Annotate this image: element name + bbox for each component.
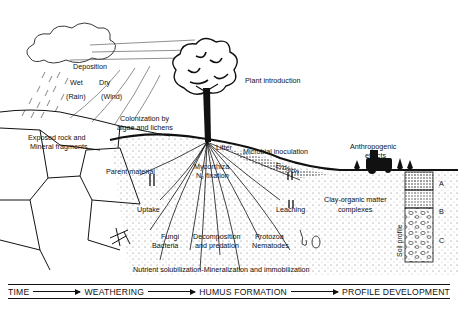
label-anthropogenic-2: effects — [365, 152, 386, 160]
soil-formation-diagram: Deposition Wet (Rain) Dry (Wind) Exposed… — [0, 0, 458, 310]
label-horizon-c: C — [439, 237, 444, 245]
timeline-step-profile: PROFILE DEVELOPMENT — [342, 287, 450, 297]
label-wind: (Wind) — [101, 93, 122, 101]
label-leaching: Leaching — [276, 206, 305, 214]
arrow-right-icon — [291, 291, 338, 292]
label-exposed-rock-2: Mineral fragments — [30, 143, 88, 151]
label-clay-organic-2: complexes — [338, 206, 372, 214]
label-deposition: Deposition — [73, 63, 107, 71]
label-parent-material: Parent material — [106, 168, 155, 176]
label-wet: Wet — [70, 79, 83, 87]
arrow-right-icon — [33, 291, 80, 292]
label-litter: Litter — [216, 144, 232, 152]
label-n2-fixation: N₂ fixation — [196, 172, 229, 180]
label-horizon-a: A — [439, 180, 444, 188]
diagram-artwork — [0, 0, 458, 310]
label-microbial-inoculation: Microbial inoculation — [243, 148, 308, 156]
timeline-step-humus: HUMUS FORMATION — [199, 287, 287, 297]
rain-lines — [22, 72, 68, 118]
label-horizon-b: B — [439, 208, 444, 216]
process-timeline: TIME WEATHERING HUMUS FORMATION PROFILE … — [8, 284, 450, 299]
label-uptake: Uptake — [137, 206, 160, 214]
label-nutrient-cycle: Nutrient solubilization-Mineralization a… — [133, 266, 310, 274]
cloud-icon — [27, 23, 116, 63]
timeline-step-time: TIME — [8, 287, 29, 297]
label-clay-organic-1: Clay-organic matter — [324, 196, 387, 204]
label-soil-profile: Soil profile — [396, 224, 403, 257]
soil-profile-column — [405, 172, 433, 262]
arrow-right-icon — [148, 291, 195, 292]
label-colonization-2: algae and lichens — [117, 124, 173, 132]
label-bacteria: Bacteria — [152, 242, 178, 250]
label-nematodes: Nematodes — [252, 242, 289, 250]
label-rain: (Rain) — [66, 93, 86, 101]
label-dry: Dry — [99, 79, 110, 87]
tree-icon — [173, 38, 237, 142]
label-decomposition-2: and predation — [195, 242, 239, 250]
label-plant-introduction: Plant introduction — [245, 77, 301, 85]
timeline-step-weathering: WEATHERING — [84, 287, 144, 297]
